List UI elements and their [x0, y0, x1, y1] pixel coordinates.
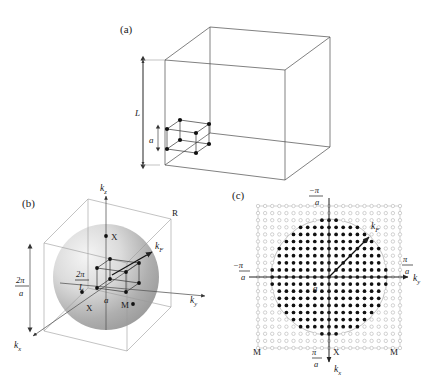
- k-point-occupied: [348, 311, 352, 315]
- k-point-unoccupied: [256, 318, 259, 321]
- k-point-unoccupied: [306, 219, 309, 222]
- k-point-occupied: [377, 268, 381, 272]
- k-point-unoccupied: [391, 297, 394, 300]
- k-point-unoccupied: [299, 211, 302, 214]
- k-point-occupied: [306, 304, 310, 308]
- k-point-occupied: [377, 304, 381, 308]
- k-point-occupied: [313, 225, 317, 229]
- panel-b: (b) kz ky: [14, 183, 205, 352]
- k-point-occupied: [299, 311, 303, 315]
- k-point-unoccupied: [271, 240, 274, 243]
- k-point-occupied: [363, 247, 367, 251]
- k-point-unoccupied: [391, 233, 394, 236]
- k-point-occupied: [299, 296, 303, 300]
- k-point-occupied: [277, 304, 281, 308]
- k-point-unoccupied: [370, 233, 373, 236]
- panel-b-label: (b): [22, 197, 35, 210]
- k-point-unoccupied: [263, 290, 266, 293]
- k-point-occupied: [370, 304, 374, 308]
- k-point-unoccupied: [271, 254, 274, 257]
- k-point-occupied: [277, 261, 281, 265]
- k-point-occupied: [320, 261, 324, 265]
- k-point-unoccupied: [278, 311, 281, 314]
- k-point-unoccupied: [363, 219, 366, 222]
- k-point-unoccupied: [299, 339, 302, 342]
- k-point-occupied: [370, 261, 374, 265]
- k-point-occupied: [356, 318, 360, 322]
- k-point-unoccupied: [334, 211, 337, 214]
- panel-a-lattice-cell: [165, 118, 211, 155]
- k-point-occupied: [341, 325, 345, 329]
- k-point-occupied: [306, 254, 310, 258]
- k-point-occupied: [306, 311, 310, 315]
- k-point-unoccupied: [313, 332, 316, 335]
- k-point-unoccupied: [384, 240, 387, 243]
- k-point-unoccupied: [363, 211, 366, 214]
- k-point-occupied: [320, 332, 324, 336]
- k-point-occupied: [285, 247, 289, 251]
- k-point-unoccupied: [285, 204, 288, 207]
- k-point-unoccupied: [278, 233, 281, 236]
- k-point-unoccupied: [391, 318, 394, 321]
- k-point-unoccupied: [292, 346, 295, 349]
- k-point-occupied: [370, 268, 374, 272]
- panel-c-tick-left-num: −π: [233, 260, 244, 270]
- k-point-occupied: [292, 318, 296, 322]
- k-point-unoccupied: [271, 211, 274, 214]
- k-point-unoccupied: [398, 233, 401, 236]
- panel-a: (a) L: [120, 23, 330, 180]
- k-point-unoccupied: [285, 219, 288, 222]
- k-point-unoccupied: [292, 219, 295, 222]
- k-point-unoccupied: [398, 297, 401, 300]
- k-point-occupied: [370, 296, 374, 300]
- k-point-occupied: [285, 261, 289, 265]
- k-point-occupied: [370, 282, 374, 286]
- k-point-unoccupied: [256, 311, 259, 314]
- k-point-unoccupied: [342, 211, 345, 214]
- k-point-occupied: [299, 233, 303, 237]
- k-point-occupied: [356, 240, 360, 244]
- k-point-occupied: [306, 289, 310, 293]
- k-point-occupied: [299, 247, 303, 251]
- k-point-occupied: [341, 268, 345, 272]
- k-point-occupied: [341, 225, 345, 229]
- k-point-occupied: [348, 268, 352, 272]
- k-point-unoccupied: [363, 339, 366, 342]
- k-point-unoccupied: [313, 219, 316, 222]
- k-point-unoccupied: [271, 304, 274, 307]
- k-point-unoccupied: [256, 304, 259, 307]
- k-point-unoccupied: [356, 219, 359, 222]
- k-point-unoccupied: [377, 219, 380, 222]
- k-point-occupied: [377, 296, 381, 300]
- panel-b-kz-label: kz: [100, 183, 107, 195]
- k-point-occupied: [277, 296, 281, 300]
- k-point-unoccupied: [320, 346, 323, 349]
- k-point-occupied: [384, 268, 388, 272]
- k-point-occupied: [363, 311, 367, 315]
- k-point-unoccupied: [384, 325, 387, 328]
- k-point-occupied: [334, 289, 338, 293]
- k-point-unoccupied: [398, 282, 401, 285]
- k-point-occupied: [363, 289, 367, 293]
- panel-c-tick-right-den: a: [405, 266, 409, 276]
- k-point-unoccupied: [342, 204, 345, 207]
- k-point-unoccupied: [278, 332, 281, 335]
- k-point-unoccupied: [398, 219, 401, 222]
- k-point-unoccupied: [263, 304, 266, 307]
- panel-a-label: (a): [120, 23, 133, 36]
- k-point-unoccupied: [306, 211, 309, 214]
- k-point-unoccupied: [398, 240, 401, 243]
- panel-b-frac-2pi-over-a: 2π a: [15, 275, 29, 298]
- k-point-unoccupied: [313, 211, 316, 214]
- k-point-unoccupied: [271, 247, 274, 250]
- k-point-occupied: [320, 318, 324, 322]
- k-point-unoccupied: [363, 204, 366, 207]
- k-point-occupied: [292, 247, 296, 251]
- k-point-occupied: [356, 304, 360, 308]
- k-point-occupied: [334, 304, 338, 308]
- k-point-unoccupied: [384, 318, 387, 321]
- k-point-unoccupied: [320, 339, 323, 342]
- k-point-unoccupied: [377, 332, 380, 335]
- figure-canvas: (a) L: [0, 0, 441, 382]
- k-point-unoccupied: [285, 226, 288, 229]
